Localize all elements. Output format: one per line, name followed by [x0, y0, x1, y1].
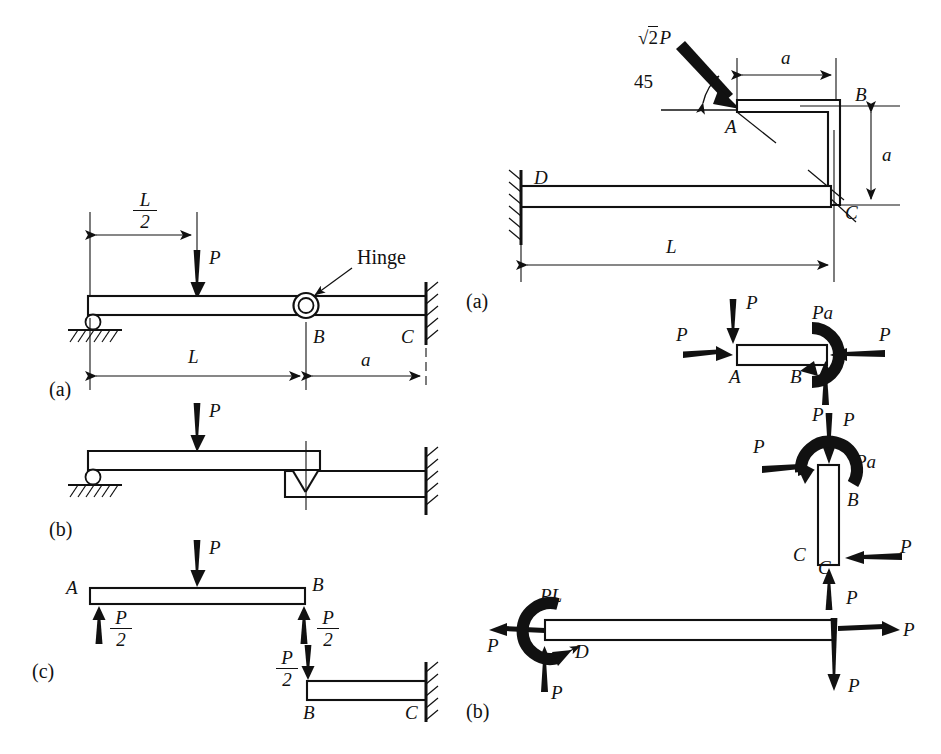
fbd-AB-label-P-right: P — [879, 325, 891, 344]
fbd-BC-label-B: B — [847, 490, 859, 509]
fbd-DC-label-PL: PL — [540, 586, 562, 605]
label-sqrt2-P: √2 P — [638, 27, 671, 49]
member-DC — [521, 186, 831, 207]
label-B-c-bottom: B — [303, 703, 315, 722]
beam-ABC — [88, 296, 426, 315]
fbd-beam-BC — [307, 681, 426, 700]
label-P-b: P — [209, 401, 221, 420]
load-arrow-P-a — [191, 250, 206, 299]
fbd-DC-label-P-vert: P — [846, 588, 858, 607]
fbd-BC-label-Pa: Pa — [855, 452, 876, 471]
panel-label-right-a: (a) — [466, 290, 488, 313]
fbd-DC-link-P-up — [826, 582, 833, 610]
fbd-DC-label-P-right: P — [903, 620, 915, 639]
label-B-c-top: B — [312, 575, 324, 594]
roller-support — [68, 315, 122, 343]
label-C-a: C — [401, 327, 414, 346]
fbd-member-DC — [545, 620, 833, 640]
label-B-right: B — [855, 85, 867, 104]
label-half-span: L 2 — [133, 190, 157, 232]
right-fbd-AB — [683, 299, 885, 405]
label-hinge: Hinge — [357, 246, 406, 269]
fixed-wall-b — [426, 447, 438, 515]
label-D-right: D — [534, 168, 548, 187]
fbd-DC-label-P-down: P — [848, 676, 860, 695]
label-a-dim: a — [361, 350, 371, 369]
fbd-AB-label-B: B — [790, 367, 802, 386]
dim-L-and-a — [90, 318, 426, 390]
roller-support-b — [68, 470, 122, 498]
hinge-symbol — [294, 293, 319, 318]
fbd-BC-force-P-right — [845, 551, 902, 564]
load-arrow-P-b — [191, 403, 206, 452]
figure-sheet: L 2 P Hinge B C L a (a) P (b) P A B P 2 … — [0, 0, 941, 754]
right-panel-a — [509, 41, 900, 282]
label-L-right: L — [666, 237, 677, 256]
fbd-DC-force-P-right — [838, 621, 900, 636]
fbd-member-BC — [818, 465, 839, 565]
panel-label-left-b: (b) — [49, 518, 72, 541]
label-B-a: B — [313, 327, 325, 346]
label-C-c: C — [405, 703, 418, 722]
fixed-wall-c — [426, 662, 438, 722]
fbd-beam-AB — [90, 588, 305, 604]
label-reaction-A: P 2 — [110, 608, 132, 650]
left-panel-a — [68, 212, 438, 390]
fbd-AB-force-P-down — [727, 299, 740, 344]
panel-label-right-b: (b) — [466, 700, 489, 723]
panel-label-left-a: (a) — [49, 378, 71, 401]
label-L-a: L — [188, 347, 199, 366]
fbd-AB-label-A: A — [729, 367, 741, 386]
label-P-c: P — [209, 538, 221, 557]
fbd-DC-label-P-left: P — [487, 636, 499, 655]
label-angle-45: 45 — [634, 72, 653, 91]
fbd-BC-label-C: C — [793, 545, 806, 564]
fbd-DC-label-C-top: C — [818, 558, 831, 577]
reaction-arrow-B-up — [298, 606, 311, 644]
fbd-AB-force-P-left — [683, 346, 733, 361]
fbd-AB-label-P-bottom: P — [812, 405, 824, 424]
reaction-arrow-B-down — [302, 645, 315, 680]
fbd-DC-label-P-up: P — [551, 683, 563, 702]
label-A-right: A — [725, 117, 737, 136]
fbd-DC-label-D: D — [575, 642, 589, 661]
label-a-horizontal: a — [781, 48, 791, 67]
hinge-leader — [315, 268, 352, 295]
fbd-BC-label-P-right: P — [900, 537, 912, 556]
fixed-wall-a — [426, 282, 438, 345]
left-panel-b — [68, 403, 438, 515]
fbd-AB-label-P-left: P — [676, 325, 688, 344]
fbd-AB-label-Pa: Pa — [812, 303, 833, 322]
fbd-BC-label-P-left: P — [753, 437, 765, 456]
fbd-AB-label-P-top: P — [746, 293, 758, 312]
label-a-vertical: a — [882, 145, 892, 164]
panel-label-left-c: (c) — [32, 660, 54, 683]
label-reaction-B-down: P 2 — [276, 648, 298, 690]
inclined-load-arrow — [676, 41, 740, 109]
fbd-BC-label-P-top: P — [843, 410, 855, 429]
load-arrow-P-c — [191, 540, 206, 587]
reaction-arrow-A — [93, 606, 106, 644]
left-panel-c — [90, 540, 438, 722]
label-P-a: P — [209, 248, 221, 267]
label-reaction-B-up: P 2 — [317, 608, 339, 650]
right-fbd-BC — [762, 413, 902, 610]
label-C-right: C — [845, 203, 858, 222]
fixed-wall-D — [509, 170, 521, 245]
label-A-c: A — [66, 578, 78, 597]
